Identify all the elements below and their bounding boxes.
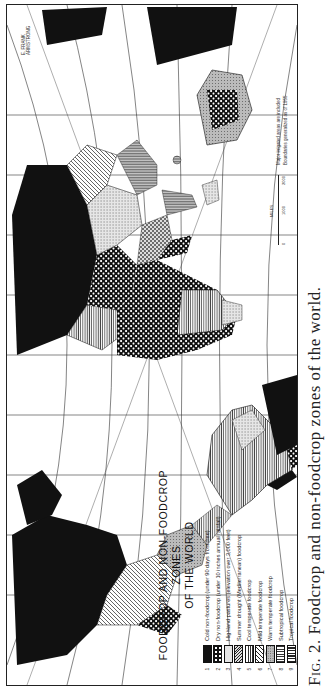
map-legend: FOODCROP AND NON-FOODCROP ZONES OF THE W… <box>157 453 293 673</box>
legend-label: Dry non-foodcrop (under 10 inches annual… <box>215 516 221 641</box>
legend-number: 4 <box>236 665 242 673</box>
swatch-vertical-lines <box>276 645 285 663</box>
legend-label: Cool temperate foodcrop <box>246 579 252 641</box>
legend-number: 2 <box>215 665 221 673</box>
swatch-fine-stipple <box>224 645 233 663</box>
legend-list: 1 Cold non-foodcrop (under 90 days frost… <box>202 453 297 673</box>
india <box>162 190 197 215</box>
antarctica-right <box>147 7 237 65</box>
greenland <box>17 470 62 525</box>
swatch-horizontal-lines <box>245 645 254 663</box>
legend-label: Subtropical foodcrop <box>278 590 284 641</box>
legend-number: 7 <box>267 665 273 673</box>
legend-item: 2 Dry non-foodcrop (under 10 inches annu… <box>213 453 224 673</box>
figure-caption: Fig. 2. Foodcrop and non-foodcrop zones … <box>300 6 330 686</box>
legend-item: 5 Cool temperate foodcrop <box>244 453 255 673</box>
legend-item: 6 Mild temperate foodcrop <box>255 453 266 673</box>
map-credits: Major irrigated areas are included Bound… <box>275 95 289 165</box>
australia <box>197 70 252 145</box>
legend-label: Summer drought (Mediterranean) foodcrop <box>236 535 242 641</box>
scale-tick: 2000 <box>281 176 286 185</box>
credits-line: Boundaries generalized as of 1955 <box>282 95 289 165</box>
credits-line: Major irrigated areas are included <box>275 95 282 165</box>
legend-item: 7 Warm temperate foodcrop <box>265 453 276 673</box>
scale-tick: 1000 <box>281 206 286 215</box>
antarctica-east <box>42 7 107 45</box>
swatch-dotted-grey <box>266 645 275 663</box>
legend-item: 1 Cold non-foodcrop (under 90 days frost… <box>202 453 213 673</box>
figure-number: Fig. 2. <box>305 639 324 686</box>
legend-number: 6 <box>257 665 263 673</box>
swatch-solid-black <box>203 645 212 663</box>
legend-label: Cold non-foodcrop (under 90 days frost-f… <box>204 530 210 641</box>
figure-caption-text: Foodcrop and non-foodcrop zones of the w… <box>305 287 324 635</box>
map-frame: E. FRANK ARMSTRONG FOODCROP AND NON-FOOD… <box>6 4 298 686</box>
legend-item: 4 Summer drought (Mediterranean) foodcro… <box>234 453 245 673</box>
swatch-checker-dots <box>213 645 222 663</box>
island <box>173 156 181 164</box>
legend-number: 9 <box>288 665 294 673</box>
scale-line <box>278 175 279 245</box>
legend-item: 8 Subtropical foodcrop <box>276 453 287 673</box>
legend-item: 9 Tropical foodcrop <box>286 453 297 673</box>
swatch-diagonal-lines <box>255 645 264 663</box>
legend-number: 3 <box>225 665 231 673</box>
legend-number: 8 <box>278 665 284 673</box>
legend-number: 5 <box>246 665 252 673</box>
legend-title-line1: FOODCROP AND NON-FOODCROP ZONES <box>157 465 183 665</box>
swatch-dense-vertical <box>287 645 296 663</box>
scale-bar: MILES 0 1000 2000 <box>269 175 289 245</box>
scale-tick: 0 <box>281 243 286 245</box>
scale-label: MILES <box>269 205 274 217</box>
legend-number: 1 <box>204 665 210 673</box>
legend-title-line2: OF THE WORLD <box>183 465 196 665</box>
legend-label: Highland pastures (elevation over 3,000 … <box>225 529 231 641</box>
corner-credit: E. FRANK ARMSTRONG <box>21 5 31 55</box>
legend-label: Tropical foodcrop <box>288 598 294 641</box>
legend-label: Mild temperate foodcrop <box>257 581 263 641</box>
legend-label: Warm temperate foodcrop <box>267 576 273 641</box>
legend-item: 3 Highland pastures (elevation over 3,00… <box>223 453 234 673</box>
rotated-page: E. FRANK ARMSTRONG FOODCROP AND NON-FOOD… <box>0 0 334 694</box>
swatch-cross-hatch <box>234 645 243 663</box>
madagascar <box>202 180 219 205</box>
africa <box>117 260 242 360</box>
